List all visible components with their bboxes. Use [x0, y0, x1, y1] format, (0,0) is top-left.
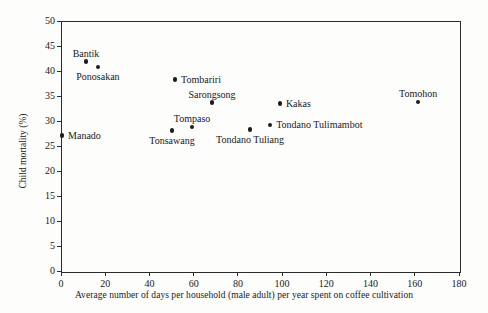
x-tick-mark [414, 272, 415, 276]
y-tick-mark [57, 221, 61, 222]
y-tick-label: 15 [45, 188, 55, 204]
x-tick-mark [193, 272, 194, 276]
x-tick-label: 120 [319, 277, 334, 290]
data-point [170, 128, 174, 132]
x-tick-mark [149, 272, 150, 276]
y-tick-label: 45 [45, 38, 55, 54]
y-tick-mark [57, 246, 61, 247]
y-tick-label: 50 [45, 13, 55, 29]
data-point-label: Sarongsong [188, 89, 235, 101]
y-tick-mark [57, 171, 61, 172]
x-tick-mark [61, 272, 62, 276]
y-tick-label: 20 [45, 163, 55, 179]
y-axis: 05101520253035404550 [0, 0, 61, 313]
y-tick-mark [57, 21, 61, 22]
data-point-label: Tompaso [174, 113, 211, 125]
y-tick-label: 30 [45, 113, 55, 129]
y-tick-label: 35 [45, 88, 55, 104]
x-tick-label: 140 [363, 277, 378, 290]
y-tick-mark [57, 46, 61, 47]
y-tick-label: 40 [45, 63, 55, 79]
x-tick-mark [282, 272, 283, 276]
y-axis-title: Child mortality (%) [18, 51, 28, 251]
x-tick-label: 60 [189, 277, 199, 290]
data-point-label: Manado [68, 130, 101, 142]
x-tick-mark [326, 272, 327, 276]
y-tick-label: 25 [45, 138, 55, 154]
x-tick-label: 20 [100, 277, 110, 290]
x-tick-label: 180 [452, 277, 467, 290]
data-point-label: Tombariri [181, 74, 221, 86]
x-tick-label: 0 [59, 277, 64, 290]
data-point-label: Tondano Tulimambot [276, 119, 362, 131]
data-point [84, 59, 88, 63]
y-tick-mark [57, 71, 61, 72]
y-tick-label: 5 [50, 238, 55, 254]
data-point [60, 133, 64, 137]
data-point [248, 127, 252, 131]
data-point-label: Tondano Tuliang [216, 134, 284, 146]
data-point [278, 101, 282, 105]
data-point-label: Tonsawang [149, 135, 194, 147]
x-tick-mark [459, 272, 460, 276]
x-tick-label: 160 [407, 277, 422, 290]
y-tick-mark [57, 96, 61, 97]
x-tick-label: 40 [144, 277, 154, 290]
x-tick-mark [370, 272, 371, 276]
x-axis-title: Average number of days per household (ma… [0, 290, 488, 300]
data-point-label: Bantik [73, 48, 100, 60]
scatter-plot-figure: 05101520253035404550 0204060801001201401… [0, 0, 488, 313]
data-point-label: Tomohon [399, 88, 437, 100]
data-point [173, 77, 177, 81]
x-tick-label: 80 [233, 277, 243, 290]
y-tick-mark [57, 146, 61, 147]
data-point [210, 100, 214, 104]
y-tick-mark [57, 196, 61, 197]
x-tick-label: 100 [275, 277, 290, 290]
x-tick-mark [105, 272, 106, 276]
data-point-label: Ponosakan [76, 71, 119, 83]
plot-area [61, 21, 461, 273]
x-tick-mark [237, 272, 238, 276]
y-tick-label: 10 [45, 213, 55, 229]
y-tick-mark [57, 121, 61, 122]
data-point-label: Kakas [286, 98, 311, 110]
